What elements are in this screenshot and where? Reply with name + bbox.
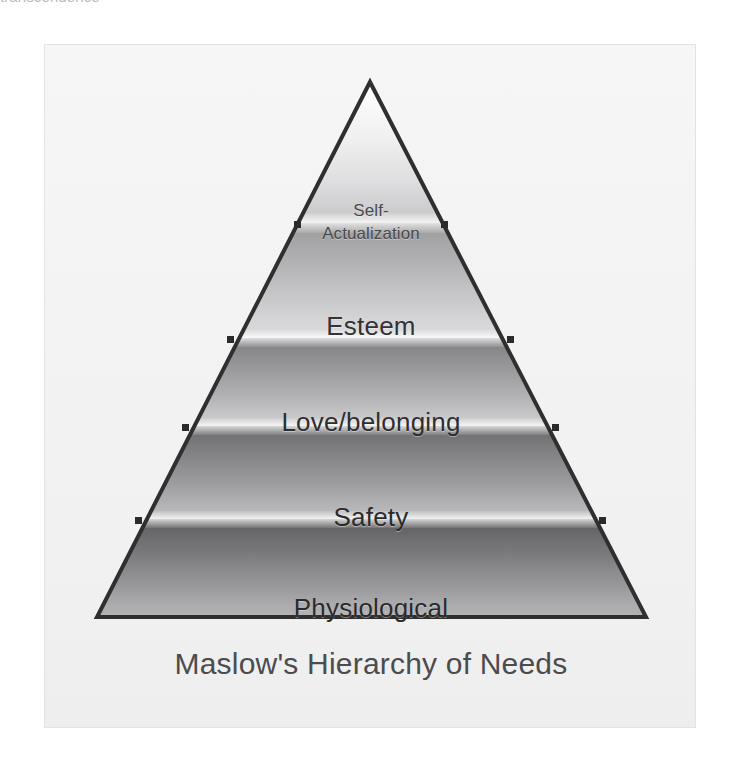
figure-frame: Self- Actualization Esteem Love/belongin… — [44, 44, 696, 728]
figure-caption: Maslow's Hierarchy of Needs — [45, 647, 697, 681]
pyramid-svg — [45, 45, 697, 635]
clipped-header-text: transcendence — [0, 0, 300, 6]
pyramid-tiers — [45, 45, 697, 635]
figure-background: Self- Actualization Esteem Love/belongin… — [45, 45, 695, 727]
maslow-pyramid-chart — [45, 45, 697, 635]
pyramid-sheen — [45, 45, 697, 635]
